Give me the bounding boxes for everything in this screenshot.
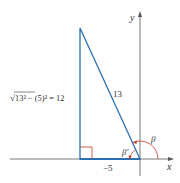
- standard-angle-label: β: [150, 134, 156, 144]
- hypotenuse-label: 13: [113, 89, 123, 99]
- reference-angle-arc: [130, 150, 136, 159]
- y-axis-arrow-icon: [138, 11, 142, 17]
- right-angle-marker: [80, 147, 92, 159]
- reference-angle-diagram: x y 13 −5 β′ β √ 13² − (5)² = 12: [0, 0, 180, 183]
- x-axis-label: x: [166, 161, 172, 172]
- reference-triangle: [80, 28, 140, 159]
- base-label: −5: [103, 163, 113, 173]
- height-label: √ 13² − (5)² = 12: [10, 92, 64, 103]
- y-axis-label: y: [129, 12, 135, 23]
- height-expression: 13² − (5)² = 12: [15, 94, 64, 103]
- reference-angle-label: β′: [121, 147, 129, 157]
